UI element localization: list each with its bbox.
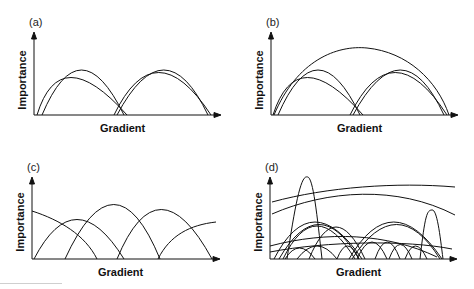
x-axis-arrow-icon bbox=[451, 113, 458, 118]
y-axis-label: Importance bbox=[16, 48, 28, 112]
curve bbox=[272, 194, 455, 215]
y-axis-arrow-icon bbox=[30, 177, 35, 184]
curve bbox=[117, 210, 212, 260]
curve bbox=[42, 70, 124, 115]
x-axis-arrow-icon bbox=[214, 113, 221, 118]
y-axis-arrow-icon bbox=[269, 32, 274, 39]
x-axis-arrow-icon bbox=[213, 257, 220, 262]
panel-label: (d) bbox=[265, 161, 278, 173]
curve bbox=[65, 205, 160, 260]
curve bbox=[285, 248, 315, 259]
panel-label: (a) bbox=[29, 16, 42, 28]
curve bbox=[32, 211, 97, 259]
x-axis-label: Gradient bbox=[100, 122, 145, 134]
x-axis-label: Gradient bbox=[337, 122, 382, 134]
curve bbox=[278, 70, 360, 115]
x-axis-label: Gradient bbox=[336, 266, 381, 278]
panel-label: (b) bbox=[266, 16, 279, 28]
y-axis-arrow-icon bbox=[32, 32, 37, 39]
x-axis-arrow-icon bbox=[450, 257, 457, 262]
y-axis-label: Importance bbox=[253, 48, 265, 112]
y-axis-label: Importance bbox=[14, 190, 26, 254]
y-axis-arrow-icon bbox=[268, 177, 273, 184]
curve bbox=[297, 246, 337, 259]
x-axis-label: Gradient bbox=[98, 266, 143, 278]
panel-d: (d) Importance Gradient bbox=[237, 145, 474, 289]
y-axis-label: Importance bbox=[252, 190, 264, 254]
curve bbox=[158, 222, 216, 259]
panel-label: (c) bbox=[27, 161, 40, 173]
curve bbox=[352, 225, 440, 260]
divider-line bbox=[0, 283, 62, 284]
panel-a: (a) Importance Gradient bbox=[0, 0, 237, 144]
curve bbox=[272, 185, 455, 202]
curve bbox=[34, 220, 124, 260]
curve bbox=[375, 242, 400, 259]
panel-c: (c) Importance Gradient bbox=[0, 145, 237, 289]
panel-b: (b) Importance Gradient bbox=[237, 0, 474, 144]
